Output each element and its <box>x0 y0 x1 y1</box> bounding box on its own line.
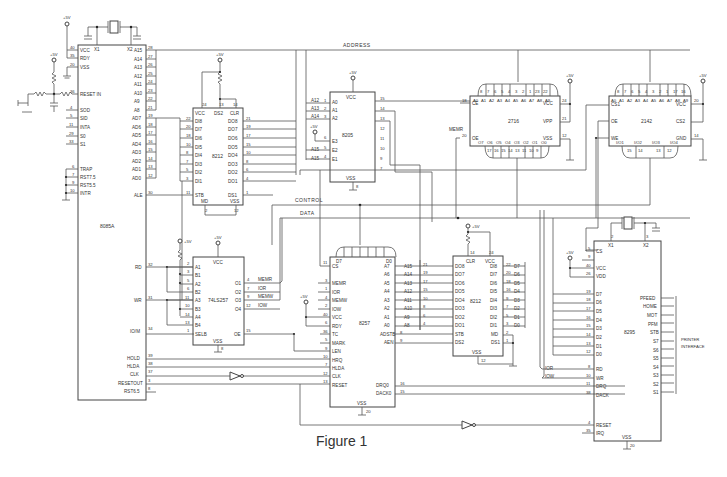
svg-text:VSS: VSS <box>543 136 552 141</box>
svg-text:15: 15 <box>586 323 591 328</box>
svg-text:11: 11 <box>380 136 385 141</box>
svg-text:X1: X1 <box>608 243 614 248</box>
svg-text:11: 11 <box>586 381 591 386</box>
svg-text:VSS: VSS <box>622 435 631 440</box>
svg-text:S2: S2 <box>653 382 659 387</box>
svg-text:TRAP: TRAP <box>80 167 92 172</box>
svg-text:7: 7 <box>506 304 509 309</box>
svg-text:3: 3 <box>515 89 518 94</box>
figure-caption: Figure 1 <box>316 433 367 449</box>
svg-text:A6: A6 <box>659 98 665 103</box>
svg-text:2: 2 <box>324 106 327 111</box>
svg-text:X2: X2 <box>643 243 649 248</box>
svg-text:15: 15 <box>380 96 385 101</box>
svg-text:DO3: DO3 <box>455 306 465 311</box>
svg-text:TC: TC <box>332 332 339 337</box>
svg-text:2: 2 <box>659 89 662 94</box>
svg-text:10: 10 <box>70 188 75 193</box>
svg-text:A14: A14 <box>134 57 143 62</box>
svg-text:11: 11 <box>522 148 527 153</box>
svg-text:VCC: VCC <box>676 102 686 107</box>
svg-text:D0: D0 <box>596 352 602 357</box>
svg-text:B3: B3 <box>195 307 201 312</box>
svg-text:A14: A14 <box>404 272 413 277</box>
svg-text:5: 5 <box>325 337 328 342</box>
svg-text:A12: A12 <box>134 74 143 79</box>
svg-text:13: 13 <box>323 379 328 384</box>
svg-text:AD6: AD6 <box>132 125 141 130</box>
svg-text:13: 13 <box>185 320 190 325</box>
svg-text:DO4: DO4 <box>455 298 465 303</box>
svg-text:12: 12 <box>380 126 385 131</box>
svg-text:O7: O7 <box>478 140 484 145</box>
svg-text:DI7: DI7 <box>490 272 498 277</box>
svg-text:7: 7 <box>247 286 250 291</box>
svg-text:A5: A5 <box>384 281 390 286</box>
svg-text:A0: A0 <box>384 323 390 328</box>
svg-text:AD2: AD2 <box>132 159 141 164</box>
svg-text:D3: D3 <box>514 298 520 303</box>
svg-text:GND: GND <box>676 136 687 141</box>
svg-text:VDD: VDD <box>596 274 606 279</box>
svg-text:22: 22 <box>186 116 191 121</box>
svg-text:DI5: DI5 <box>490 289 498 294</box>
svg-text:37: 37 <box>148 369 153 374</box>
svg-text:A15: A15 <box>134 48 143 53</box>
svg-text:9: 9 <box>536 148 539 153</box>
svg-text:9: 9 <box>325 346 328 351</box>
svg-text:+5V: +5V <box>472 224 480 229</box>
svg-text:VCC: VCC <box>195 111 205 116</box>
mux-74ls257: 74LS257 VCC VSS +5V 8 +5V 2 A1 3 B1 5 A2… <box>166 218 295 352</box>
svg-text:4: 4 <box>423 321 426 326</box>
svg-text:17: 17 <box>487 148 492 153</box>
svg-text:E1: E1 <box>332 157 338 162</box>
svg-text:2142: 2142 <box>641 118 652 124</box>
svg-text:OE: OE <box>234 332 241 337</box>
svg-text:VCC: VCC <box>332 315 342 320</box>
svg-text:20: 20 <box>186 124 191 129</box>
svg-text:A6: A6 <box>384 272 390 277</box>
svg-text:21: 21 <box>148 105 153 110</box>
eprom-data-pins: O7 O6 O5 O4 O3 O2 O1 O0 17 16 15 14 13 1… <box>478 140 549 218</box>
svg-text:AD3: AD3 <box>132 150 141 155</box>
svg-text:A2: A2 <box>195 282 201 287</box>
crystal-icon <box>624 217 632 229</box>
svg-text:16: 16 <box>494 148 499 153</box>
control-bus-label: CONTROL <box>295 197 323 203</box>
svg-text:VSS: VSS <box>213 339 222 344</box>
svg-text:MARK: MARK <box>332 341 346 346</box>
svg-text:11: 11 <box>69 122 74 127</box>
svg-text:DO6: DO6 <box>228 136 238 141</box>
svg-text:20: 20 <box>630 443 635 448</box>
svg-text:MOT: MOT <box>647 313 657 318</box>
svg-text:X2: X2 <box>127 47 133 52</box>
svg-text:MEMW: MEMW <box>258 294 274 299</box>
eprom-oe-net: MEMR <box>449 127 464 132</box>
svg-text:8: 8 <box>423 304 426 309</box>
svg-text:8: 8 <box>480 89 483 94</box>
svg-text:A14: A14 <box>311 114 320 119</box>
svg-text:PFEED: PFEED <box>640 296 656 301</box>
svg-text:A12: A12 <box>404 289 413 294</box>
svg-text:13: 13 <box>515 148 520 153</box>
svg-text:CLR: CLR <box>466 259 476 264</box>
svg-text:25: 25 <box>148 71 153 76</box>
svg-text:3: 3 <box>186 176 189 181</box>
svg-text:38: 38 <box>586 390 591 395</box>
svg-text:13: 13 <box>656 148 661 153</box>
svg-text:40: 40 <box>323 312 328 317</box>
svg-text:24: 24 <box>202 102 207 107</box>
svg-text:10: 10 <box>185 303 190 308</box>
svg-text:A10: A10 <box>404 306 413 311</box>
svg-text:10: 10 <box>380 146 385 151</box>
svg-text:16: 16 <box>586 315 591 320</box>
svg-text:MEMR: MEMR <box>332 281 347 286</box>
svg-text:1: 1 <box>246 190 249 195</box>
svg-text:O6: O6 <box>487 140 493 145</box>
svg-text:A7: A7 <box>667 98 673 103</box>
svg-text:O3: O3 <box>235 298 242 303</box>
svg-text:O1: O1 <box>235 281 242 286</box>
svg-text:AD0: AD0 <box>132 176 141 181</box>
svg-text:RST6.5: RST6.5 <box>124 389 140 394</box>
svg-text:OE: OE <box>472 136 479 141</box>
